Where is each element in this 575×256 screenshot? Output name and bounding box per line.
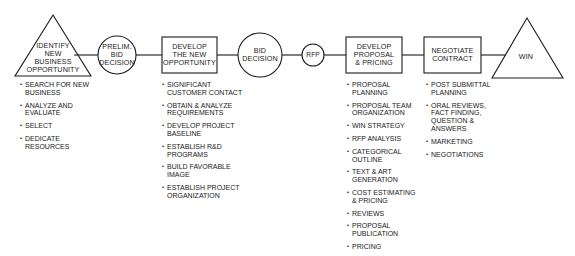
bid-decision-label: BID DECISION [238, 47, 282, 63]
list-item: ESTABLISH R&DPROGRAMS [162, 143, 242, 159]
list-item: ANALYZE ANDEVALUATE [20, 102, 89, 118]
win-label: WIN [510, 53, 542, 61]
label-line: WIN [510, 53, 542, 61]
develop-proposal-activities-list: PROPOSALPLANNING PROPOSAL TEAMORGANIZATI… [347, 81, 416, 256]
list-item: COST ESTIMATING& PRICING [347, 189, 416, 205]
list-item: MARKETING [426, 138, 491, 146]
list-item: DEDICATERESOURCES [20, 135, 89, 151]
negotiate-activities-list: POST SUBMITTALPLANNING ORAL REVIEWS,FACT… [426, 81, 491, 163]
list-item: WIN STRATEGY [347, 122, 416, 130]
list-item: SIGNIFICANTCUSTOMER CONTACT [162, 81, 242, 97]
identify-label: IDENTIFY NEW BUSINESS OPPORTUNITY [21, 42, 85, 74]
list-item: PROPOSAL TEAMORGANIZATION [347, 102, 416, 118]
win-triangle [492, 18, 563, 78]
label-line: CONTRACT [424, 55, 481, 63]
label-line: OPPORTUNITY [21, 66, 85, 74]
list-item: DEVELOP PROJECTBASELINE [162, 122, 242, 138]
list-item: SELECT [20, 122, 89, 130]
develop-proposal-label: DEVELOP PROPOSAL & PRICING [346, 43, 402, 67]
identify-activities-list: SEARCH FOR NEWBUSINESS ANALYZE ANDEVALUA… [20, 81, 89, 156]
label-line: RFP [302, 51, 324, 59]
label-line: OPPORTUNITY [162, 59, 217, 67]
list-item: TEXT & ARTGENERATION [347, 168, 416, 184]
label-line: DECISION [238, 55, 282, 63]
list-item: ESTABLISH PROJECTORGANIZATION [162, 184, 242, 200]
list-item: POST SUBMITTALPLANNING [426, 81, 491, 97]
prelim-label: PRELIM. BID DECISION [98, 43, 136, 67]
develop-opportunity-activities-list: SIGNIFICANTCUSTOMER CONTACT OBTAIN & ANA… [162, 81, 242, 205]
list-item: PROPOSALPLANNING [347, 81, 416, 97]
list-item: SEARCH FOR NEWBUSINESS [20, 81, 89, 97]
list-item: OBTAIN & ANALYZEREQUIREMENTS [162, 102, 242, 118]
develop-opportunity-label: DEVELOP THE NEW OPPORTUNITY [162, 43, 217, 67]
list-item: PRICING [347, 243, 416, 251]
label-line: DECISION [98, 59, 136, 67]
list-item: ORAL REVIEWS,FACT FINDING,QUESTION &ANSW… [426, 102, 491, 133]
label-line: & PRICING [346, 59, 402, 67]
negotiate-contract-label: NEGOTIATE CONTRACT [424, 47, 481, 63]
list-item: PROPOSALPUBLICATION [347, 222, 416, 238]
list-item: REVIEWS [347, 210, 416, 218]
list-item: NEGOTIATIONS [426, 151, 491, 159]
list-item: BUILD FAVORABLEIMAGE [162, 163, 242, 179]
rfp-label: RFP [302, 51, 324, 59]
list-item: RFP ANALYSIS [347, 135, 416, 143]
list-item: CATEGORICALOUTLINE [347, 148, 416, 164]
